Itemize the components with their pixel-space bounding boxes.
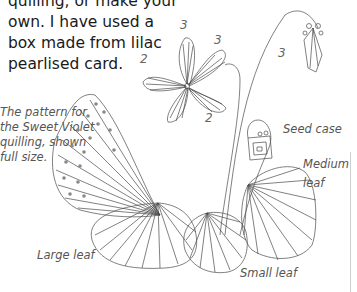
large-leaf-illustration: [91, 203, 196, 268]
seed-case-label: Seed case: [283, 122, 342, 136]
petal-number: 3: [278, 46, 286, 60]
small-leaf-label: Small leaf: [240, 266, 297, 280]
bud-illustration: [303, 24, 323, 73]
seed-case-illustration: [248, 131, 272, 160]
petal-number: 3: [180, 18, 188, 32]
violet-flower-illustration: [143, 38, 226, 122]
medium-leaf-label-line2: leaf: [303, 176, 324, 190]
medium-leaf-label-line1: Medium: [303, 157, 349, 171]
wing-dots: [62, 102, 116, 198]
petal-number: 3: [214, 33, 222, 47]
large-leaf-wing-illustration: [52, 94, 160, 216]
small-leaf-illustration: [184, 212, 248, 272]
petal-number: 2: [140, 52, 148, 66]
page-edge-divider: [350, 152, 351, 292]
petal-number: 2: [205, 111, 213, 125]
large-leaf-label: Large leaf: [37, 248, 95, 262]
